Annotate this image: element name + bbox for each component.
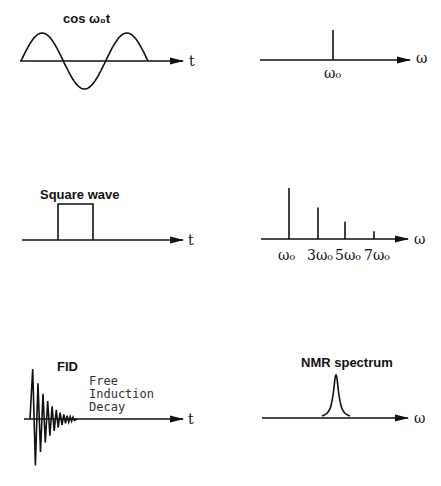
panel-square-frequency: ω ω₀3ω₀5ω₀7ω₀ bbox=[261, 188, 425, 263]
panel-nmr-frequency: NMR spectrum ω bbox=[262, 355, 425, 426]
panel-cosine-time: cos ω₀t t bbox=[20, 11, 195, 89]
fid-subtitle-line-3: Decay bbox=[89, 400, 125, 414]
axis-label-t: t bbox=[188, 232, 194, 248]
harmonic-label-1: ω₀ bbox=[278, 247, 295, 263]
fid-subtitle-line-1: Free bbox=[89, 374, 118, 388]
panel-square-time: Square wave t bbox=[22, 187, 194, 248]
harmonic-label-5: 5ω₀ bbox=[335, 247, 361, 263]
harmonic-label-3: 3ω₀ bbox=[307, 247, 333, 263]
peak-label-omega0: ω₀ bbox=[324, 65, 341, 81]
nmr-lorentzian-peak bbox=[322, 375, 350, 416]
fourier-pairs-diagram: cos ω₀t t ω ω₀ Square wave t ω ω₀3ω₀5ω₀7… bbox=[0, 0, 441, 486]
panel-cosine-frequency: ω ω₀ bbox=[260, 30, 427, 81]
axis-label-omega: ω bbox=[416, 50, 427, 66]
harmonic-lines: ω₀3ω₀5ω₀7ω₀ bbox=[278, 188, 390, 263]
harmonic-label-7: 7ω₀ bbox=[364, 247, 390, 263]
nmr-spectrum-title: NMR spectrum bbox=[301, 355, 393, 370]
square-wave-title: Square wave bbox=[40, 187, 120, 202]
fid-subtitle-line-2: Induction bbox=[89, 387, 154, 401]
panel-fid-time: FID Free Induction Decay t bbox=[24, 359, 194, 465]
square-pulse bbox=[58, 204, 93, 240]
axis-label-t: t bbox=[188, 411, 194, 427]
axis-label-omega: ω bbox=[414, 231, 425, 247]
axis-label-t: t bbox=[189, 53, 195, 69]
axis-label-omega: ω bbox=[414, 410, 425, 426]
fid-title: FID bbox=[57, 359, 78, 374]
fid-decay-curve bbox=[30, 369, 77, 465]
cosine-title: cos ω₀t bbox=[63, 11, 111, 26]
